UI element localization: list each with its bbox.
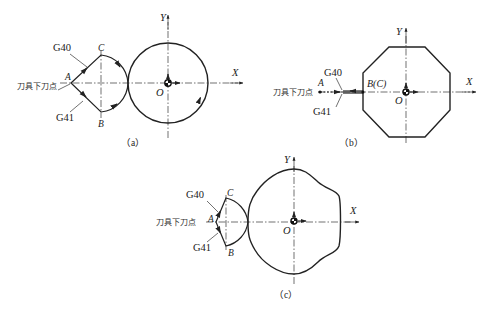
x-label-c: X [349, 205, 357, 216]
direction-arrow-a [199, 98, 201, 102]
y-label-b: Y [396, 26, 403, 37]
y-label-c: Y [284, 154, 291, 165]
tool-down-point-label-b: 刀具下刀点 [273, 88, 313, 97]
point-b-label-c: B [228, 248, 234, 258]
tool-down-point-label-c: 刀具下刀点 [156, 218, 196, 227]
caption-a: （a） [121, 137, 145, 148]
point-a-label-a: A [64, 72, 71, 82]
point-bc-b [361, 90, 364, 93]
caption-b: （b） [339, 137, 364, 148]
point-c-label-a: C [98, 43, 105, 53]
origin-label-a: O [156, 87, 164, 98]
point-c-label-c: C [227, 188, 234, 198]
panel-a: Y X O C B A G40 G41 刀具下刀点 （a） [17, 12, 243, 148]
origin-symbol-b [403, 83, 418, 95]
origin-symbol-a [165, 74, 180, 86]
point-a-label-b: A [317, 78, 324, 88]
origin-label-c: O [283, 225, 291, 236]
tool-path-a [71, 55, 128, 112]
origin-label-b: O [395, 95, 403, 106]
g41-label-c: G41 [193, 242, 211, 253]
point-a-label-c: A [207, 214, 214, 224]
g40-label-c: G40 [186, 189, 204, 200]
figure-canvas: Y X O C B A G40 G41 刀具下刀点 （a） [0, 0, 488, 312]
y-label-a: Y [160, 12, 167, 23]
x-label-b: X [465, 76, 473, 87]
g40-label-a: G40 [53, 42, 71, 53]
panel-c: Y X O C B A G40 G41 刀具下刀点 （c） [156, 154, 359, 300]
caption-c: （c） [274, 289, 298, 300]
tool-down-point-label-a: 刀具下刀点 [17, 82, 57, 91]
point-b-label-a: B [98, 119, 104, 129]
panel-b: Y X O A B(C) G40 G41 刀具下刀点 （b） [273, 26, 476, 148]
g40-label-b: G40 [324, 67, 342, 78]
g41-label-a: G41 [56, 112, 74, 123]
g41-label-b: G41 [313, 106, 331, 117]
point-bc-label-b: B(C) [367, 78, 387, 90]
x-label-a: X [231, 67, 239, 78]
